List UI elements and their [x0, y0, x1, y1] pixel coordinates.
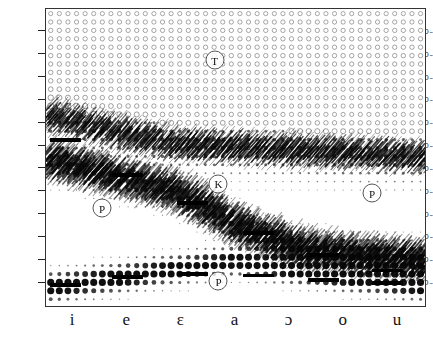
y-axis-tick-mark — [38, 145, 45, 146]
y-axis-tick-mark — [38, 99, 45, 100]
y-axis-tick-mark — [38, 236, 45, 237]
y-axis-tick-mark — [38, 76, 45, 77]
y-axis-unit-mark: ~ — [429, 165, 433, 171]
y-axis-tick-mark — [38, 259, 45, 260]
y-axis-unit-mark: ~ — [429, 74, 433, 80]
consonant-marker-p: P — [209, 272, 228, 291]
y-axis-tick-mark — [38, 53, 45, 54]
x-axis-tick-label: e — [122, 310, 130, 330]
y-axis-tick-mark — [38, 282, 45, 283]
y-axis-tick-mark — [38, 30, 45, 31]
y-axis-tick-mark — [38, 122, 45, 123]
y-axis-unit-mark: ~ — [429, 120, 433, 126]
x-axis-tick-label: u — [393, 310, 402, 330]
x-axis-tick-label: o — [339, 310, 348, 330]
consonant-marker-p: P — [93, 199, 112, 218]
y-axis-unit-mark: ~ — [429, 280, 433, 286]
consonant-marker-k: K — [209, 174, 228, 193]
y-axis-tick-mark — [38, 190, 45, 191]
spectrogram-figure: 4320~3960~3600~3240~2880~2520~2160~1800~… — [0, 0, 433, 340]
consonant-marker-group: TKPPP — [46, 9, 425, 306]
y-axis-unit-mark: ~ — [429, 188, 433, 194]
y-axis-unit-mark: ~ — [429, 97, 433, 103]
consonant-marker-p: P — [362, 184, 381, 203]
y-axis-unit-mark: ~ — [429, 28, 433, 34]
consonant-marker-t: T — [205, 51, 224, 70]
y-axis-unit-mark: ~ — [429, 211, 433, 217]
y-axis-unit-mark: ~ — [429, 51, 433, 57]
y-axis-tick-mark — [38, 213, 45, 214]
x-axis-tick-label: a — [231, 310, 239, 330]
y-axis-tick-mark — [38, 167, 45, 168]
plot-area: TKPPP — [45, 8, 426, 307]
y-axis-unit-mark: ~ — [429, 234, 433, 240]
y-axis-unit-mark: ~ — [429, 143, 433, 149]
x-axis-tick-label: ɛ — [177, 310, 184, 330]
x-axis-tick-label: i — [70, 310, 75, 330]
x-axis-tick-label: ɔ — [285, 310, 293, 330]
y-axis-unit-mark: ~ — [429, 257, 433, 263]
